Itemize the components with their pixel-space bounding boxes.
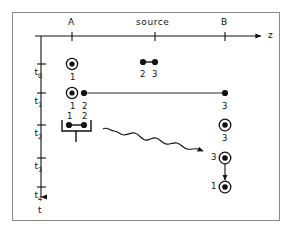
- wavy-signal-arrow-group: [103, 128, 203, 151]
- particle-label-1-t2: 1: [67, 112, 72, 121]
- t-tick-label-t0: t0: [23, 59, 42, 88]
- particle-3-dot-t1: [222, 90, 228, 96]
- wavy-signal-arrow: [103, 128, 203, 151]
- t-tick-label-t1: t1: [23, 88, 42, 117]
- particle-label-3-t3: 3: [211, 153, 216, 162]
- row-t3-group: [219, 152, 231, 164]
- z-tick-label-A: A: [68, 18, 75, 27]
- particle-label-1-t1: 1: [70, 102, 75, 111]
- particle-label-2-t1: 2: [82, 102, 87, 111]
- t3-sub: 3: [38, 166, 42, 174]
- t0-sub: 0: [38, 72, 42, 80]
- particle-2-dot-t1: [81, 90, 87, 96]
- t1-sub: 1: [38, 101, 42, 109]
- t-tick-label-t2: t2: [23, 120, 42, 149]
- particle-1-dot-t0: [69, 61, 74, 66]
- particle-3-dot-t0: [152, 59, 158, 65]
- particle-label-3-t0: 3: [152, 70, 157, 79]
- row-t1-group: [66, 87, 228, 98]
- particle-1-dot-t2: [66, 122, 72, 128]
- particle-label-3-t1: 3: [222, 102, 227, 111]
- z-tick-label-source: source: [136, 18, 170, 27]
- particle-1-dot-t1: [69, 90, 74, 95]
- t4-sub: 4: [38, 195, 42, 203]
- t2-sub: 2: [38, 133, 42, 141]
- particle-3-dot-t3: [222, 155, 228, 161]
- particle-1-dot-t4: [222, 184, 228, 190]
- row-t2-group: [62, 119, 231, 142]
- particle-3-dot-t2: [222, 122, 228, 128]
- particle-2-dot-t0: [140, 59, 146, 65]
- z-tick-label-B: B: [221, 18, 228, 27]
- row-t0-group: [66, 58, 158, 69]
- particle-label-1-t4: 1: [211, 182, 216, 191]
- particle-label-3-t2: 3: [222, 134, 227, 143]
- particle-label-2-t0: 2: [140, 70, 145, 79]
- particle-label-1-t0: 1: [70, 73, 75, 82]
- t-axis-label: t: [38, 206, 42, 215]
- t-tick-label-t3: t3: [23, 153, 42, 182]
- spacetime-diagram-figure: A source B z t0 t1 t2 t3 t4 t 1 2 3 1 2 …: [0, 0, 291, 235]
- z-axis-group: [35, 32, 261, 41]
- z-axis-label: z: [268, 31, 273, 40]
- diagram-canvas: [0, 0, 291, 235]
- particle-label-2-t2: 2: [82, 112, 87, 121]
- particle-2-dot-t2: [81, 122, 87, 128]
- row-t4-group: [219, 181, 231, 193]
